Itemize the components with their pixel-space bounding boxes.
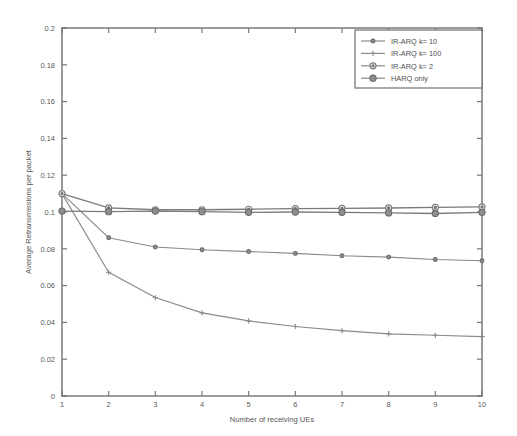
series-marker bbox=[340, 254, 344, 258]
series-marker bbox=[339, 209, 345, 215]
y-tick-label: 0.04 bbox=[40, 318, 55, 327]
series-marker bbox=[386, 210, 392, 216]
legend-item-label: IR-ARQ k= 2 bbox=[391, 62, 433, 71]
series-marker bbox=[292, 209, 298, 215]
series-marker bbox=[387, 255, 391, 259]
series-marker bbox=[153, 245, 157, 249]
x-tick-label: 3 bbox=[153, 400, 157, 409]
y-tick-label: 0.14 bbox=[40, 134, 55, 143]
y-tick-label: 0.12 bbox=[40, 171, 55, 180]
series-marker bbox=[200, 248, 204, 252]
series-marker bbox=[199, 209, 205, 215]
x-tick-label: 10 bbox=[478, 400, 486, 409]
y-tick-label: 0.06 bbox=[40, 281, 55, 290]
x-axis-label: Number of receiving UEs bbox=[230, 415, 315, 424]
series-marker bbox=[59, 208, 65, 214]
series-marker bbox=[293, 252, 297, 256]
legend: IR-ARQ k= 10IR-ARQ k= 100IR-ARQ k= 2HARQ… bbox=[355, 30, 482, 88]
x-tick-label: 5 bbox=[247, 400, 251, 409]
series-marker bbox=[152, 208, 158, 214]
series-marker bbox=[246, 209, 252, 215]
x-tick-label: 6 bbox=[293, 400, 297, 409]
series-marker bbox=[433, 258, 437, 262]
series-marker bbox=[480, 259, 484, 263]
legend-item-label: HARQ only bbox=[391, 74, 428, 83]
series-marker bbox=[434, 206, 436, 208]
legend-marker bbox=[371, 39, 375, 43]
y-tick-label: 0.16 bbox=[40, 97, 55, 106]
series-marker bbox=[479, 209, 485, 215]
series-marker bbox=[388, 207, 390, 209]
chart-figure: 00.020.040.060.080.10.120.140.160.180.21… bbox=[0, 0, 517, 436]
y-tick-label: 0.18 bbox=[40, 61, 55, 70]
x-tick-label: 7 bbox=[340, 400, 344, 409]
x-tick-label: 8 bbox=[387, 400, 391, 409]
y-tick-label: 0.02 bbox=[40, 355, 55, 364]
x-tick-label: 1 bbox=[60, 400, 64, 409]
x-tick-label: 2 bbox=[107, 400, 111, 409]
y-tick-label: 0.2 bbox=[45, 24, 55, 33]
series-marker bbox=[247, 250, 251, 254]
series-marker bbox=[432, 210, 438, 216]
y-tick-label: 0.08 bbox=[40, 245, 55, 254]
series-marker bbox=[61, 193, 63, 195]
y-tick-label: 0.1 bbox=[45, 208, 55, 217]
series-marker bbox=[481, 206, 483, 208]
legend-item-label: IR-ARQ k= 100 bbox=[391, 49, 441, 58]
x-tick-label: 9 bbox=[433, 400, 437, 409]
series-marker bbox=[107, 236, 111, 240]
y-axis-label: Average Retransmissions per packet bbox=[24, 149, 33, 274]
x-tick-label: 4 bbox=[200, 400, 204, 409]
legend-marker bbox=[370, 75, 376, 81]
legend-marker bbox=[372, 65, 374, 67]
legend-item-label: IR-ARQ k= 10 bbox=[391, 37, 437, 46]
y-tick-label: 0 bbox=[51, 392, 55, 401]
chart-svg: 00.020.040.060.080.10.120.140.160.180.21… bbox=[0, 0, 517, 436]
series-marker bbox=[106, 209, 112, 215]
